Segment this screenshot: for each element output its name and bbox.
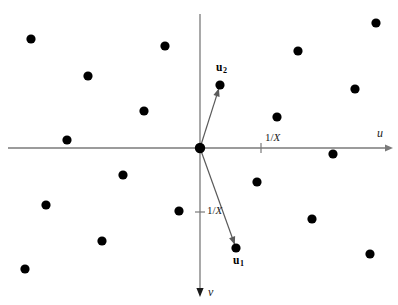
lattice-point	[83, 71, 92, 80]
vector-u2-label: u2	[216, 62, 226, 74]
lattice-point	[20, 264, 29, 273]
lattice-point	[293, 46, 302, 55]
origin-point	[195, 143, 205, 153]
lattice-point	[231, 243, 240, 252]
vector-u1-line	[200, 148, 235, 245]
lattice-point	[174, 206, 183, 215]
origin-dot	[195, 143, 205, 153]
lattice-point	[26, 34, 35, 43]
lattice-point	[97, 236, 106, 245]
v-axis-tick-label: 1/X	[207, 205, 222, 216]
lattice-point	[139, 106, 148, 115]
v-axis-arrowhead	[196, 288, 203, 297]
lattice-point	[118, 170, 127, 179]
plot-canvas	[0, 0, 398, 305]
lattice-point	[365, 249, 374, 258]
lattice-point	[307, 214, 316, 223]
lattice-point	[160, 41, 169, 50]
u-axis-arrowhead	[385, 145, 393, 152]
reciprocal-lattice-figure: u v 1/X 1/X u2 u1	[0, 0, 398, 305]
axis-ticks-group	[195, 143, 261, 212]
vector-u1-label: u1	[233, 255, 243, 267]
basis-vectors-group	[200, 88, 235, 244]
lattice-point	[350, 84, 359, 93]
u-axis-tick-label: 1/X	[265, 132, 280, 143]
lattice-point	[62, 135, 71, 144]
lattice-point	[215, 80, 224, 89]
lattice-point	[252, 177, 261, 186]
lattice-point	[272, 112, 281, 121]
v-axis-label: v	[208, 286, 213, 298]
vector-u2-arrowhead	[213, 88, 219, 97]
vector-u2-line	[200, 88, 219, 148]
u-axis-label: u	[377, 127, 383, 139]
lattice-point	[41, 200, 50, 209]
vector-u1-arrowhead	[229, 236, 235, 245]
lattice-point	[328, 149, 337, 158]
lattice-point	[371, 18, 380, 27]
